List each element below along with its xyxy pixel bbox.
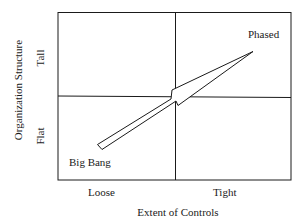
- matrix-diagram: Phased Big Bang Loose Tight Extent of Co…: [0, 0, 305, 223]
- x-high-label: Tight: [213, 186, 236, 198]
- y-high-label: Tall: [34, 50, 46, 67]
- big-bang-label: Big Bang: [69, 156, 111, 168]
- phased-label: Phased: [248, 28, 280, 40]
- x-low-label: Loose: [88, 186, 115, 198]
- y-low-label: Flat: [34, 127, 46, 144]
- x-axis-title: Extent of Controls: [137, 206, 218, 218]
- y-axis-title: Organization Structure: [12, 40, 24, 140]
